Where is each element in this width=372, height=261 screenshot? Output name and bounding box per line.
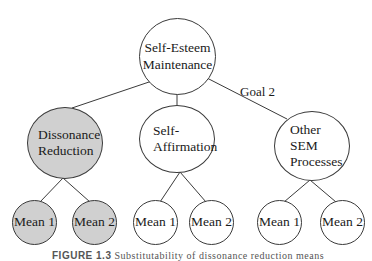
node-other-sem-processes: Other SEM Processes bbox=[274, 111, 350, 181]
node-label: Maintenance bbox=[143, 57, 213, 73]
node-label: Processes bbox=[290, 154, 349, 170]
node-label: Self-Esteem bbox=[145, 40, 211, 56]
node-label: Mean 2 bbox=[74, 214, 115, 230]
node-self-affirmation: Self- Affirmation bbox=[139, 105, 215, 173]
node-sa-mean-1: Mean 1 bbox=[133, 200, 178, 245]
node-label: Mean 1 bbox=[14, 214, 55, 230]
node-label: Mean 1 bbox=[259, 214, 300, 230]
node-sem-mean-2: Mean 2 bbox=[320, 200, 365, 245]
node-sem-mean-1: Mean 1 bbox=[257, 200, 302, 245]
caption-label: FIGURE 1.3 bbox=[52, 250, 111, 261]
edge-label-goal-2: Goal 2 bbox=[240, 84, 275, 100]
node-label: Other bbox=[290, 122, 349, 138]
node-self-esteem-maintenance: Self-Esteem Maintenance bbox=[139, 18, 216, 95]
caption-text: Substitutability of dissonance reduction… bbox=[114, 250, 324, 261]
node-label: Reduction bbox=[38, 143, 102, 159]
node-label: Mean 1 bbox=[135, 214, 176, 230]
node-label: Self- bbox=[153, 123, 214, 139]
node-sa-mean-2: Mean 2 bbox=[189, 200, 234, 245]
node-label: Mean 2 bbox=[191, 214, 232, 230]
node-label: Dissonance bbox=[38, 127, 102, 143]
node-dissonance-reduction: Dissonance Reduction bbox=[27, 107, 103, 179]
figure-caption: FIGURE 1.3 Substitutability of dissonanc… bbox=[52, 250, 324, 261]
node-dr-mean-1: Mean 1 bbox=[12, 200, 57, 245]
node-label: SEM bbox=[290, 138, 349, 154]
node-dr-mean-2: Mean 2 bbox=[72, 200, 117, 245]
node-label: Affirmation bbox=[153, 139, 214, 155]
node-label: Mean 2 bbox=[322, 214, 363, 230]
